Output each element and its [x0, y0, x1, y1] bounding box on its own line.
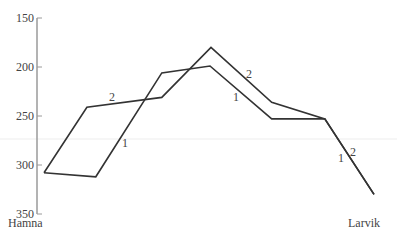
- series-label-1: 1: [233, 90, 239, 104]
- x-label-start: Hamna: [8, 216, 43, 230]
- series-label-1: 1: [122, 136, 128, 150]
- series-label-2: 2: [350, 145, 356, 159]
- series-label-2: 2: [246, 67, 252, 81]
- series-line-2: [44, 47, 374, 194]
- y-tick-label: 200: [16, 60, 34, 74]
- y-axis: 150200250300350: [16, 11, 42, 221]
- series-labels: 111222: [109, 67, 356, 165]
- series-label-1: 1: [338, 151, 344, 165]
- y-tick-label: 250: [16, 109, 34, 123]
- y-tick-label: 300: [16, 158, 34, 172]
- line-chart: 150200250300350 111222 Hamna Larvik: [0, 0, 397, 239]
- x-label-end: Larvik: [348, 216, 380, 230]
- series-label-2: 2: [109, 90, 115, 104]
- series-line-1: [44, 66, 374, 194]
- series-group: [44, 47, 374, 194]
- y-tick-label: 150: [16, 11, 34, 25]
